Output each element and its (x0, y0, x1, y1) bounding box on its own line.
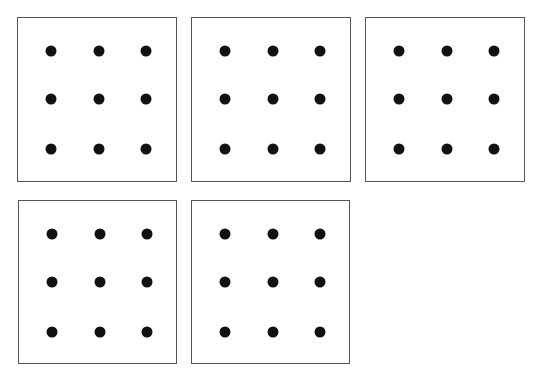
dot-icon (268, 277, 279, 288)
dot-grid-box-1 (17, 17, 177, 182)
dot-icon (442, 46, 453, 57)
dot-icon (442, 94, 453, 105)
dot-icon (220, 229, 231, 240)
dot-icon (268, 94, 279, 105)
dot-icon (142, 327, 153, 338)
dot-icon (442, 144, 453, 155)
dot-icon (220, 327, 231, 338)
dot-icon (268, 327, 279, 338)
dot-grid-box-5 (191, 200, 350, 364)
dot-icon (47, 229, 58, 240)
dot-icon (142, 229, 153, 240)
dot-icon (46, 46, 57, 57)
dot-icon (95, 327, 106, 338)
dot-icon (268, 229, 279, 240)
dot-icon (94, 94, 105, 105)
dot-icon (268, 144, 279, 155)
dot-icon (220, 277, 231, 288)
dot-icon (220, 94, 231, 105)
dot-icon (315, 327, 326, 338)
dot-icon (394, 144, 405, 155)
dot-icon (315, 277, 326, 288)
dot-icon (141, 94, 152, 105)
dot-grid-box-4 (18, 200, 177, 364)
dot-icon (141, 46, 152, 57)
dot-grid-box-2 (191, 17, 351, 182)
dot-icon (489, 46, 500, 57)
dot-icon (489, 94, 500, 105)
dot-icon (141, 144, 152, 155)
dot-icon (394, 46, 405, 57)
dot-icon (94, 144, 105, 155)
dot-icon (315, 46, 326, 57)
dot-icon (489, 144, 500, 155)
dot-icon (94, 46, 105, 57)
dot-icon (268, 46, 279, 57)
dot-icon (46, 94, 57, 105)
dot-icon (394, 94, 405, 105)
dot-icon (47, 327, 58, 338)
dot-icon (315, 144, 326, 155)
dot-icon (220, 46, 231, 57)
dot-icon (142, 277, 153, 288)
dot-icon (95, 277, 106, 288)
dot-grid-box-3 (365, 17, 525, 182)
dot-icon (220, 144, 231, 155)
dot-icon (47, 277, 58, 288)
dot-icon (315, 94, 326, 105)
dot-icon (315, 229, 326, 240)
dot-icon (46, 144, 57, 155)
dot-icon (95, 229, 106, 240)
